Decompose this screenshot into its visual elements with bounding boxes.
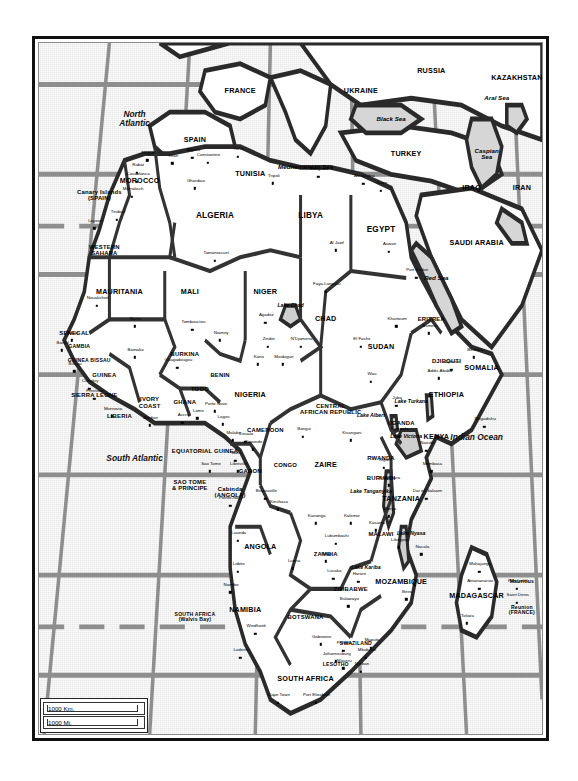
- city-label-bujumbura: Bujumbura: [379, 475, 400, 480]
- city-label-cape-town: Cape Town: [268, 693, 290, 698]
- city-dot-kasama: [375, 529, 377, 531]
- country-label-mozambique: MOZAMBIQUE: [375, 578, 427, 586]
- city-label-port-sudan: Port Sudan: [406, 268, 428, 273]
- city-dot-bamako: [133, 356, 135, 358]
- country-label-south-africa: SOUTH AFRICA: [277, 675, 333, 683]
- city-label-nairobi: Nairobi: [420, 441, 434, 446]
- lake-label-lake-nyasa: Lake Nyasa: [397, 531, 426, 536]
- city-dot-monrovia: [111, 415, 113, 417]
- ocean-label-north-atlantic-line-2: Atlantic: [119, 119, 150, 128]
- city-label-antananarivo: Antananarivo: [467, 579, 493, 584]
- city-label-asmera: Asmera: [422, 323, 437, 328]
- country-label-gambia: GAMBIA: [68, 344, 90, 349]
- city-dot-bissau: [73, 370, 75, 372]
- city-dot-maseru: [342, 667, 344, 669]
- city-label-lubumbashi: Lubumbashi: [325, 534, 349, 539]
- city-dot-harare: [357, 581, 359, 583]
- city-label-addis-ababa: Addis Ababa: [428, 368, 453, 373]
- city-dot-freetown: [93, 398, 95, 400]
- city-dot-gaborone: [319, 643, 321, 645]
- city-label-saint-denis: Saint Denis: [507, 593, 529, 598]
- city-dot-tangier: [146, 159, 148, 161]
- city-dot-kalemie: [350, 522, 352, 524]
- country-label-malawi: MALAWI: [368, 531, 393, 537]
- map-page: NorthAtlanticSouth AtlanticIndian Ocean …: [0, 0, 578, 781]
- city-dot-niamey: [219, 339, 221, 341]
- city-label-mombasa: Mombasa: [423, 462, 442, 467]
- city-dot-alexandria: [362, 183, 364, 185]
- country-label-congo: CONGO: [274, 461, 297, 467]
- city-dot-toliara: [465, 622, 467, 624]
- city-label-tunis: Tunis: [233, 147, 244, 152]
- country-label-iran: IRAN: [513, 184, 531, 192]
- country-label-somalia: SOMALIA: [464, 364, 499, 372]
- city-label-mogadishu: Mogadishu: [474, 417, 495, 422]
- city-dot-benghazi: [317, 176, 319, 178]
- city-dot-maiduguri: [282, 363, 284, 365]
- country-label-equatorial-guinea: EQUATORIAL GUINEA: [172, 448, 238, 454]
- country-label-ghana: GHANA: [174, 399, 197, 405]
- city-label-layoun: Layoun: [88, 218, 102, 223]
- city-dot-el-fashir: [360, 346, 362, 348]
- country-label-canary-islands-spain: Canary Islands(SPAIN): [77, 189, 122, 201]
- city-dot-tombouctou: [191, 329, 193, 331]
- city-dot-faya-largeau: [325, 291, 327, 293]
- city-dot-kitwe: [325, 560, 327, 562]
- scale-mi-tick-right: [137, 719, 138, 726]
- city-dot-berbera: [473, 356, 475, 358]
- scale-km-rule: [47, 711, 138, 712]
- city-dot-dar-es-salaam: [425, 498, 427, 500]
- city-label-brazzaville: Brazzaville: [256, 489, 277, 494]
- lake-label-lake-chad: Lake Chad: [277, 303, 303, 308]
- city-dot-accra: [181, 422, 183, 424]
- city-label-sao-tome: Sao Tome: [201, 462, 221, 467]
- city-dot-yaounde: [252, 448, 254, 450]
- city-label-casablanca: Casablanca: [126, 172, 149, 177]
- country-label-ivory-coast-line-2: COAST: [139, 402, 161, 408]
- city-dot-mahajanga: [478, 570, 480, 572]
- country-label-algeria: ALGERIA: [196, 211, 234, 220]
- city-label-kinshasa: Kinshasa: [270, 500, 288, 505]
- city-dot-nacala: [420, 553, 422, 555]
- city-dot-kinshasa: [277, 508, 279, 510]
- country-label-canary-islands-spain-line-2: (SPAIN): [77, 195, 122, 201]
- city-dot-brazzaville: [264, 498, 266, 500]
- country-label-niger: NIGER: [253, 288, 277, 296]
- city-label-ouagadougou: Ouagadougou: [164, 358, 192, 363]
- country-label-central-african-republic: CENTRALAFRICAN REPUBLIC: [300, 403, 361, 415]
- city-dot-mombasa: [430, 470, 432, 472]
- city-label-tamanrasset: Tamanrasset: [203, 251, 228, 256]
- city-label-kampala: Kampala: [391, 427, 408, 432]
- city-dot-luderitz: [239, 657, 241, 659]
- country-label-iraq: IRAQ: [462, 184, 481, 192]
- country-label-morocco: MOROCCO: [120, 177, 160, 185]
- city-label-kigali: Kigali: [379, 458, 390, 463]
- city-label-pointe-noire: Pointe-Noire: [219, 496, 243, 501]
- map-geometry: [39, 43, 542, 734]
- city-dot-namibe: [229, 591, 231, 593]
- city-label-cairo: Cairo: [377, 181, 388, 186]
- city-dot-lubumbashi: [335, 543, 337, 545]
- country-label-mali: MALI: [181, 288, 199, 296]
- country-label-turkey: TURKEY: [391, 150, 422, 158]
- city-label-agadez: Agadez: [259, 313, 274, 318]
- city-label-kananga: Kananga: [308, 513, 326, 518]
- city-dot-malabo: [231, 439, 233, 441]
- city-dot-agadez: [264, 322, 266, 324]
- city-label-tripoli: Tripoli: [268, 173, 280, 178]
- city-label-faya-largeau: Faya-Largeau: [313, 282, 340, 287]
- city-dot-constantine: [206, 161, 208, 163]
- city-dot-khartoum: [395, 325, 397, 327]
- city-label-banjul: Banjul: [57, 341, 69, 346]
- ocean-label-indian-ocean: Indian Ocean: [450, 432, 503, 441]
- city-label-porto-novo: Porto Novo: [205, 401, 227, 406]
- city-label-beira: Beira: [402, 589, 412, 594]
- city-label-rabat: Rabat: [132, 163, 144, 168]
- city-dot-sao-tome: [209, 470, 211, 472]
- country-label-zaire: ZAIRE: [314, 461, 337, 469]
- lake-label-lake-kariba: Lake Kariba: [351, 565, 380, 570]
- city-dot-addis-ababa: [438, 377, 440, 379]
- country-label-sao-tome-principe-line-2: & PRINCIPE: [172, 485, 208, 491]
- city-dot-aswan: [387, 250, 389, 252]
- city-label-constantine: Constantine: [197, 153, 220, 158]
